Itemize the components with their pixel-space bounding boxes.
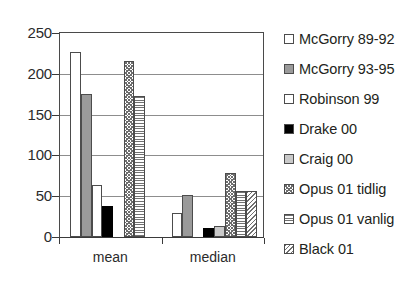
bar-opus-01-tidlig-mean [124,61,135,237]
y-axis-tick-label: 150 [28,107,52,122]
legend-swatch-icon [284,154,294,164]
legend-swatch-icon [284,94,294,104]
legend-item-label: Craig 00 [299,151,353,167]
bar-mcgorry-93-95-median [182,195,193,237]
legend-item-label: Robinson 99 [299,91,379,107]
bar-mcgorry-89-92-median [172,213,183,237]
legend-swatch-icon [284,34,294,44]
legend-swatch-icon [284,124,294,134]
bar-mcgorry-89-92-mean [70,52,81,237]
legend-item-label: Black 01 [299,241,354,257]
y-axis-tick-label: 250 [28,25,52,40]
y-axis-tick-mark [52,74,59,75]
bars-layer [60,33,263,237]
legend-item[interactable]: Drake 00 [284,114,410,144]
y-axis-tick-mark [52,237,59,238]
y-axis-tick-mark [52,33,59,34]
legend-item-label: McGorry 89-92 [299,31,394,47]
legend-item[interactable]: Opus 01 tidlig [284,174,410,204]
x-axis-category-label: median [163,249,263,265]
plot-area: 250200150100500 meanmedian [0,0,272,285]
bar-chart-figure: 250200150100500 meanmedian McGorry 89-92… [0,0,410,285]
x-axis-tick-mark [264,238,265,244]
legend-item[interactable]: Opus 01 vanlig [284,204,410,234]
bar-mcgorry-93-95-mean [81,94,92,237]
y-axis-tick-label: 200 [28,66,52,81]
legend-item[interactable]: McGorry 89-92 [284,24,410,54]
bar-craig-00-median [214,226,225,237]
legend-item-label: McGorry 93-95 [299,61,394,77]
bar-group-mean [60,33,162,237]
legend-item-label: Opus 01 vanlig [299,211,394,227]
bar-robinson-99-mean [92,185,103,237]
y-axis-tick-label: 50 [36,188,52,203]
bar-black-01-median [246,191,257,238]
bar-drake-00-mean [102,206,113,237]
legend-swatch-icon [284,244,294,254]
legend-item-label: Opus 01 tidlig [299,181,386,197]
plot-frame [59,32,264,238]
legend-item-label: Drake 00 [299,121,357,137]
x-axis-tick-mark [162,238,163,244]
y-axis-tick-mark [52,115,59,116]
y-axis-tick-mark [52,196,59,197]
bar-opus-01-vanlig-median [236,191,247,238]
y-axis-tick-label: 0 [44,229,52,244]
bar-drake-00-median [203,228,214,237]
chart-legend: McGorry 89-92McGorry 93-95Robinson 99Dra… [272,0,410,285]
y-axis-tick-label: 100 [28,147,52,162]
y-axis-tick-mark [52,155,59,156]
bar-group-median [162,33,264,237]
legend-swatch-icon [284,64,294,74]
x-axis-tick-mark [59,238,60,244]
legend-swatch-icon [284,184,294,194]
legend-item[interactable]: Black 01 [284,234,410,264]
legend-item[interactable]: Craig 00 [284,144,410,174]
legend-item[interactable]: McGorry 93-95 [284,54,410,84]
legend-swatch-icon [284,214,294,224]
legend-item[interactable]: Robinson 99 [284,84,410,114]
bar-opus-01-vanlig-mean [134,96,145,237]
bar-opus-01-tidlig-median [225,173,236,237]
y-axis-tick-labels: 250200150100500 [8,0,52,285]
x-axis-category-label: mean [60,249,160,265]
